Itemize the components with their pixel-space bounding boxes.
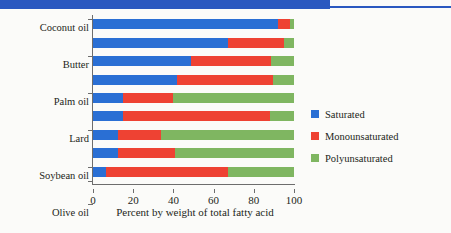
x-axis-tick-label: 80 [234,194,274,206]
bar-segment-saturated [93,75,177,85]
legend-swatch-monounsaturated [311,132,319,140]
bar-segment-saturated [93,148,118,158]
category-label: Butter [0,59,89,70]
bar-segment-monounsaturated [118,130,161,140]
header-band [0,0,330,9]
bar-segment-saturated [93,56,191,66]
bar-segment-saturated [93,38,228,48]
legend-item: Saturated [311,106,449,122]
bar-row: Olive oil [93,111,294,121]
x-axis-tick [93,189,94,193]
x-axis-tick [294,189,295,193]
x-axis-tick-label: 0 [73,194,113,206]
bar-segment-saturated [93,111,123,121]
category-label: Palm oil [0,96,89,107]
bar-row: Canola oil [93,167,294,177]
category-label: Coconut oil [0,22,89,33]
bar-row: Corn oil [93,148,294,158]
x-axis-tick [254,189,255,193]
legend-label: Polyunsaturated [325,153,393,164]
bar-segment-polyunsaturated [270,111,294,121]
x-axis-tick-label: 40 [153,194,193,206]
category-label: Soybean oil [0,170,89,181]
stacked-bar-chart: Coconut oilButterPalm oilLardSoybean oil… [0,11,451,233]
bar-segment-monounsaturated [191,56,270,66]
bar-segment-monounsaturated [118,148,175,158]
bar-segment-polyunsaturated [228,167,294,177]
category-label: Lard [0,133,89,144]
x-axis-line [92,184,295,185]
bar-segment-polyunsaturated [273,75,294,85]
x-axis-tick-label: 20 [113,194,153,206]
bar-segment-saturated [93,130,118,140]
x-axis-tick [214,189,215,193]
bar-segment-monounsaturated [123,93,173,103]
bar-segment-monounsaturated [123,111,270,121]
chart-legend: Saturated Monounsaturated Polyunsaturate… [311,106,449,172]
bar-segment-saturated [93,19,278,29]
legend-item: Polyunsaturated [311,150,449,166]
bar-segment-polyunsaturated [290,19,294,29]
x-axis-tick [173,189,174,193]
bar-row: Butter [93,38,294,48]
legend-swatch-saturated [311,110,319,118]
bar-segment-polyunsaturated [161,130,294,140]
bar-segment-saturated [93,167,106,177]
bar-row: Sunflower oil [93,130,294,140]
plot-area: Coconut oilButterPalm oilLardSoybean oil… [93,15,294,181]
bar-row: Lard [93,75,294,85]
bar-segment-monounsaturated [106,167,228,177]
bar-segment-saturated [93,93,123,103]
bar-row: Coconut oil [93,19,294,29]
bar-row: Palm oil [93,56,294,66]
bar-row: Soybean oil [93,93,294,103]
bar-segment-polyunsaturated [175,148,294,158]
legend-label: Saturated [325,109,365,120]
x-axis-title: Percent by weight of total fatty acid [0,206,390,218]
y-axis-tick [88,181,93,182]
legend-label: Monounsaturated [325,131,399,142]
bar-segment-polyunsaturated [284,38,294,48]
x-axis-tick-label: 100 [274,194,314,206]
x-axis-tick [133,189,134,193]
header-rule [330,6,451,8]
y-axis-tick [88,19,93,20]
legend-item: Monounsaturated [311,128,449,144]
bar-segment-polyunsaturated [173,93,294,103]
bar-segment-monounsaturated [177,75,272,85]
bar-segment-monounsaturated [278,19,290,29]
legend-swatch-polyunsaturated [311,154,319,162]
bar-segment-polyunsaturated [271,56,294,66]
bar-segment-monounsaturated [228,38,284,48]
x-axis-tick-label: 60 [194,194,234,206]
